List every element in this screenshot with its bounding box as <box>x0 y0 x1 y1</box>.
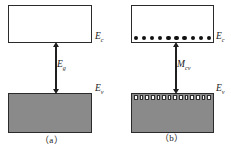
panel-b-ev-subscript: v <box>222 88 225 95</box>
panel-b-m-symbol: M <box>177 59 185 69</box>
panel-a-conduction-band-label: Ec <box>95 32 104 43</box>
panel-b-caption: （b） <box>160 134 183 143</box>
panel-a-conduction-band <box>8 5 92 43</box>
panel-b-m-subscript: cv <box>185 64 191 71</box>
panel-b-valence-band-label: Ev <box>216 84 225 95</box>
panel-b-conduction-band-label: Ec <box>216 32 225 43</box>
panel-b-conduction-band <box>131 5 214 43</box>
panel-b-ec-subscript: c <box>222 36 225 43</box>
panel-a-eg-subscript: g <box>63 64 66 71</box>
band-diagram-figure: Ec Ev Eg （a） Ec Ev Mcv （b） <box>0 0 231 151</box>
panel-b-valence-band <box>131 93 214 133</box>
panel-a-caption: （a） <box>40 136 63 145</box>
panel-a-valence-band-label: Ev <box>95 84 104 95</box>
arrow-head-down-icon <box>173 89 179 94</box>
arrow-head-down-icon <box>53 89 59 94</box>
panel-a-ev-subscript: v <box>101 88 104 95</box>
panel-a-bandgap-label: Eg <box>57 60 66 71</box>
panel-a-ec-subscript: c <box>101 36 104 43</box>
panel-b-matrix-element-label: Mcv <box>177 60 190 71</box>
panel-a-valence-band <box>8 93 92 133</box>
